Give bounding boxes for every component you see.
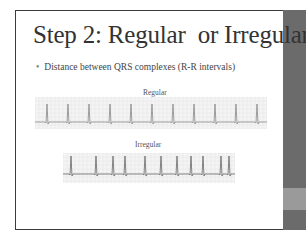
bullet-item: •Distance between QRS complexes (R-R int…	[36, 62, 235, 72]
irregular-label: Irregular	[135, 140, 161, 149]
bullet-text: Distance between QRS complexes (R-R inte…	[44, 62, 235, 72]
regular-ecg-strip	[35, 97, 267, 129]
regular-label: Regular	[143, 88, 167, 97]
bullet-dot-icon: •	[36, 62, 39, 72]
ecg-grid-background	[63, 153, 235, 183]
slide-accent-band	[283, 188, 306, 210]
irregular-ecg-strip	[63, 153, 235, 183]
slide-title: Step 2: Regular or Irregular	[33, 21, 306, 49]
